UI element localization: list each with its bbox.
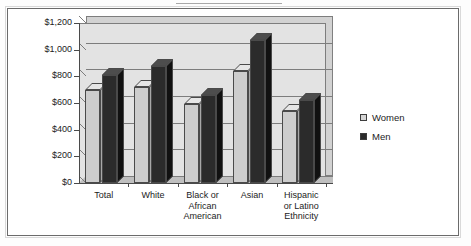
bar-side-face [166, 59, 173, 183]
bar-side-face [216, 88, 223, 183]
gridline-depth-connector [79, 16, 86, 23]
bar-women-hispanic [282, 111, 297, 183]
bar-front-face [151, 66, 166, 183]
bar-men-hispanic [299, 100, 314, 183]
y-axis-tick-labels: $0$200$400$600$800$1,000$1,200 [8, 9, 72, 237]
bar-front-face [201, 95, 216, 183]
legend-label: Women [372, 113, 405, 123]
x-axis-label-line: African [173, 201, 233, 212]
x-axis-tick [227, 183, 228, 187]
y-axis-tick-label: $1,200 [12, 18, 72, 27]
bar-front-face [102, 75, 117, 183]
bar-front-face [134, 87, 149, 183]
legend-label: Men [372, 132, 390, 142]
bars-layer [79, 23, 326, 183]
x-axis-tick [178, 183, 179, 187]
bar-women-total [85, 90, 100, 183]
bar-side-face [117, 68, 124, 183]
bar-women-asian [233, 71, 248, 183]
chart-legend: WomenMen [360, 113, 405, 150]
y-axis-tick-label: $1,000 [12, 45, 72, 54]
x-axis-label-line: Ethnicity [271, 211, 331, 222]
y-axis-tick-label: $600 [12, 98, 72, 107]
x-axis-tick [326, 183, 327, 187]
y-axis-tick-label: $0 [12, 178, 72, 187]
legend-item-men: Men [360, 132, 405, 142]
bar-front-face [233, 71, 248, 183]
x-axis-label-line: Hispanic [271, 190, 331, 201]
bar-front-face [250, 40, 265, 183]
bar-chart: $0$200$400$600$800$1,000$1,200 TotalWhit… [8, 9, 460, 237]
bar-front-face [299, 100, 314, 183]
legend-item-women: Women [360, 113, 405, 123]
gridline [86, 16, 333, 17]
scanned-page: $0$200$400$600$800$1,000$1,200 TotalWhit… [0, 0, 471, 246]
y-axis-tick-label: $400 [12, 125, 72, 134]
legend-swatch-women [360, 114, 367, 121]
page-edge-artifact [176, 3, 282, 4]
legend-swatch-men [360, 133, 367, 140]
bar-women-white [184, 104, 199, 183]
bar-women-blackor [134, 87, 149, 183]
bar-men-total [102, 75, 117, 183]
bar-side-face [314, 93, 321, 183]
x-axis-tick [277, 183, 278, 187]
y-axis-tick-label: $200 [12, 151, 72, 160]
bar-side-face [265, 33, 272, 183]
bar-men-white [201, 95, 216, 183]
chart-figure-frame: $0$200$400$600$800$1,000$1,200 TotalWhit… [7, 8, 459, 236]
x-axis-label-line: or Latino [271, 201, 331, 212]
x-axis-line [79, 183, 333, 184]
x-axis-label-line: American [173, 211, 233, 222]
bar-men-asian [250, 40, 265, 183]
x-axis-tick [128, 183, 129, 187]
bar-front-face [184, 104, 199, 183]
bar-front-face [282, 111, 297, 183]
y-axis-tick-label: $800 [12, 71, 72, 80]
bar-front-face [85, 90, 100, 183]
x-axis-tick-label: Hispanicor LatinoEthnicity [271, 190, 331, 222]
bar-men-blackor [151, 66, 166, 183]
